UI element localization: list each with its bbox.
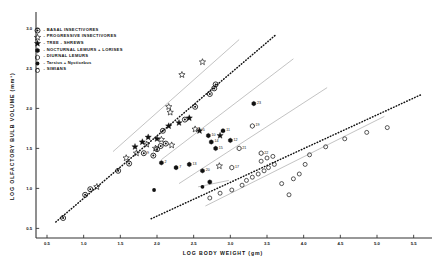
data-point-open-circle [259,159,263,163]
data-point-open-circle [271,154,275,158]
data-point-filled-hex [214,146,218,151]
data-point-open-circle [297,172,301,176]
x-tick-label: 2.5 [185,241,203,246]
data-point-filled-star [132,144,138,150]
data-point-open-star [158,136,164,142]
data-point-bullseye [127,161,132,166]
data-point-filled-hex [221,129,225,134]
legend: -BASAL INSECTIVORES-PROGRESSIVE INSECTIV… [33,26,123,72]
x-tick-label: 4.5 [331,241,349,246]
data-point-open-star [94,184,100,190]
point-label: 5 [203,128,205,132]
data-point-bullseye [158,144,163,149]
data-point-open-circle [343,137,347,141]
data-point-open-star [199,59,205,65]
data-point-filled-star [154,136,160,142]
point-label: 12 [234,138,238,142]
legend-dash: - [44,33,46,38]
legend-item-2: -TREE - SHREWS [33,39,123,46]
y-tick-label: 1.0 [18,186,32,191]
legend-dash: - [44,47,46,52]
x-tick-label: 3.5 [258,241,276,246]
data-point-open-circle [272,162,276,166]
legend-item-6: -SIMIANS [33,66,123,73]
data-point-open-circle [265,156,269,160]
data-point-filled-hex [159,161,163,166]
x-tick-label: 4.0 [295,241,313,246]
x-tick-label: 1.5 [111,241,129,246]
legend-item-4: -DIURNAL LEMURS [33,52,123,59]
x-tick-label: 5.0 [368,241,386,246]
data-point-open-circle [244,178,248,182]
point-label: 5 [198,127,200,131]
regression-line-simian-dotted [151,94,422,219]
data-point-open-star [152,145,158,151]
point-label: 21 [242,146,246,150]
data-point-open-circle [208,196,212,200]
data-point-open-circle [250,175,254,179]
data-point-open-circle [240,183,244,187]
data-point-filled-hex [174,165,178,170]
data-point-open-circle [230,188,234,192]
point-label: 22 [264,151,268,155]
point-label: 20 [206,168,210,172]
data-point-bullseye [151,153,156,158]
data-point-open-hex [250,124,254,129]
data-point-bullseye [88,187,93,192]
point-label: 11 [226,128,230,132]
figure-scatter-plot: 0.51.01.52.02.53.03.54.04.55.05.5 0.51.0… [0,0,446,271]
legend-label: Tarsius + Nycticebus [47,60,92,65]
y-tick-label: 0.5 [18,226,32,231]
data-point-open-hex [259,151,263,156]
legend-item-1: -PROGRESSIVE INSECTIVORES [33,33,123,40]
data-point-open-circle [266,166,270,170]
x-tick-label: 5.5 [405,241,423,246]
data-point-open-circle [385,126,389,130]
data-point-open-circle [256,172,260,176]
open-circle-icon [33,60,42,78]
legend-dash: - [44,60,46,65]
point-label: 7 [179,165,181,169]
data-point-filled-hex [206,133,210,138]
data-point-open-star [133,150,139,156]
y-axis-title: LOG OLFACTORY BULB VOLUME (mm³) [9,72,15,200]
point-label: 13 [192,162,196,166]
data-point-open-circle [291,177,295,181]
x-axis-title: LOG BODY WEIGHT (gm) [0,250,446,256]
legend-item-5: -Tarsius + Nycticebus [33,59,123,66]
data-point-open-circle [303,162,307,166]
marker-open-circle [36,68,40,72]
legend-label: PROGRESSIVE INSECTIVORES [47,33,117,38]
data-point-bullseye [193,104,198,109]
data-point-bullseye [207,92,212,97]
data-point-open-circle [365,130,369,134]
legend-item-3: -NOCTURNAL LEMURS + LORISES [33,46,123,53]
data-point-bullseye [163,141,168,146]
x-tick-label: 0.5 [38,241,56,246]
regression-line-low-solid-4 [205,116,384,206]
data-point-open-hex [230,165,234,170]
point-label: 19 [256,123,260,127]
data-point-open-circle [218,191,222,195]
point-label: 10 [212,133,216,137]
data-point-filled-star [145,134,151,140]
data-point-bullseye [160,128,165,133]
point-label: 17 [235,165,239,169]
data-point-open-circle [280,182,284,186]
data-point-open-star [179,72,185,78]
data-point-open-circle [262,169,266,173]
data-point-open-star [167,109,173,115]
data-point-open-hex [237,146,241,151]
legend-label: TREE - SHREWS [47,40,84,45]
y-tick-label: 3.0 [18,26,32,31]
data-point-filled-hex [208,180,212,185]
point-label: 23 [257,101,261,105]
y-tick-label: 2.5 [18,66,32,71]
data-point-filled-circle [201,185,205,189]
point-label: 15 [219,146,223,150]
data-point-filled-star [217,132,223,138]
data-point-filled-hex [200,169,204,174]
x-tick-label: 2.0 [148,241,166,246]
legend-label: BASAL INSECTIVORES [47,27,99,32]
point-label: 2 [165,160,167,164]
